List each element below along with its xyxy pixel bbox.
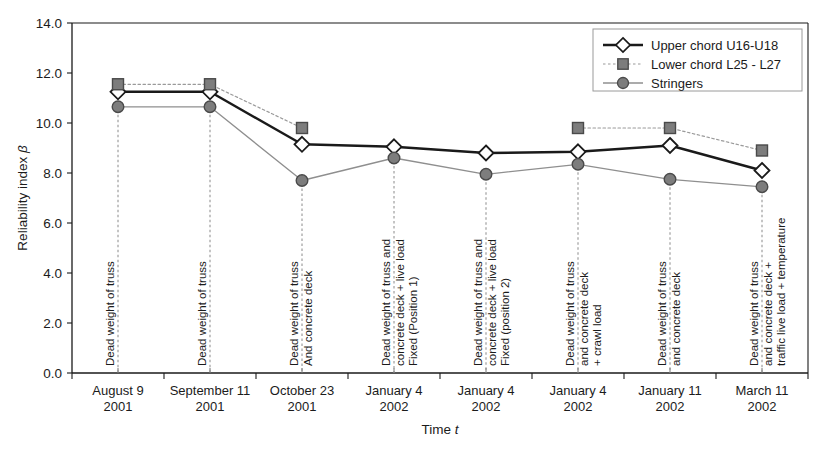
annotation-text: and concrete deck +: [762, 262, 774, 366]
category-label-year: 2002: [748, 399, 777, 414]
category-label-year: 2001: [288, 399, 317, 414]
category-labels: August 92001September 112001October 2320…: [92, 383, 788, 414]
category-label-year: 2002: [656, 399, 685, 414]
annotation-text: traffic live load + temperature: [775, 218, 787, 366]
y-tick-label: 0.0: [43, 366, 62, 381]
annotation-text: and concrete deck: [578, 272, 590, 366]
annotation-text: Fixed (Position 1): [407, 276, 419, 366]
category-label-year: 2002: [564, 399, 593, 414]
annotation-text: and concrete deck: [670, 272, 682, 366]
annotation-text: Dead weight of truss: [104, 261, 116, 366]
annotation-text: Dead weight of truss: [748, 261, 760, 366]
legend-label: Upper chord U16-U18: [651, 38, 778, 53]
data-point-square: [757, 145, 768, 156]
category-label-date: September 11: [170, 383, 251, 398]
category-label-year: 2001: [104, 399, 133, 414]
y-axis-title-text: Reliability index: [15, 153, 30, 251]
category-label-date: January 11: [638, 383, 701, 398]
annotation-text: Dead weight of truss: [288, 261, 300, 366]
legend: Upper chord U16-U18Lower chord L25 - L27…: [593, 29, 802, 91]
y-tick-label: 4.0: [43, 266, 62, 281]
data-point-circle: [664, 173, 676, 185]
annotation-text: Dead weight of truss: [656, 261, 668, 366]
x-axis-title-text: Time: [421, 422, 454, 437]
data-point-circle: [296, 175, 308, 187]
category-label-date: January 4: [549, 383, 606, 398]
category-label-year: 2002: [380, 399, 409, 414]
data-point-square: [618, 59, 628, 69]
data-point-circle: [572, 158, 584, 170]
annotation-text: Fixed (position 2): [499, 278, 511, 366]
category-label-date: January 4: [457, 383, 514, 398]
annotation-text: concrete deck + live load: [394, 239, 406, 366]
data-point-circle: [480, 168, 492, 180]
reliability-index-line-chart: 0.02.04.06.08.010.012.014.0 Reliability …: [0, 0, 825, 449]
data-point-circle: [617, 77, 628, 88]
y-tick-label: 12.0: [36, 66, 62, 81]
category-label-year: 2002: [472, 399, 501, 414]
legend-label: Stringers: [651, 76, 704, 91]
data-point-square: [113, 79, 124, 90]
y-axis-title: Reliability index β: [15, 145, 30, 251]
data-point-square: [665, 123, 676, 134]
y-tick-label: 6.0: [43, 216, 62, 231]
data-point-square: [573, 123, 584, 134]
legend-label: Lower chord L25 - L27: [651, 57, 781, 72]
annotation-text: Dead weight of truss: [564, 261, 576, 366]
y-tick-label: 10.0: [36, 116, 62, 131]
category-label-date: January 4: [365, 383, 422, 398]
annotation-text: + crawl load: [591, 304, 603, 366]
data-point-square: [205, 79, 216, 90]
data-point-circle: [756, 181, 768, 193]
chart-figure: 0.02.04.06.08.010.012.014.0 Reliability …: [0, 0, 825, 449]
y-tick-label: 14.0: [36, 16, 62, 31]
annotation-text: Dead weight of truss and: [380, 239, 392, 366]
category-label-date: March 11: [735, 383, 788, 398]
svg-text:Reliability index β: Reliability index β: [15, 145, 30, 251]
y-axis: 0.02.04.06.08.010.012.014.0: [36, 16, 72, 381]
y-tick-label: 8.0: [43, 166, 62, 181]
category-label-date: October 23: [270, 383, 334, 398]
category-label-date: August 9: [92, 383, 143, 398]
annotation-text: concrete deck + live load: [486, 239, 498, 366]
annotation-text: Dead weight of truss and: [472, 239, 484, 366]
annotation-text: And concrete deck: [302, 270, 314, 366]
y-tick-label: 2.0: [43, 316, 62, 331]
data-point-circle: [112, 101, 124, 113]
data-point-square: [297, 123, 308, 134]
data-point-circle: [204, 101, 216, 113]
category-label-year: 2001: [196, 399, 225, 414]
annotation-text: Dead weight of truss: [196, 261, 208, 366]
data-point-circle: [388, 152, 400, 164]
x-axis-title: Time t: [421, 422, 459, 437]
